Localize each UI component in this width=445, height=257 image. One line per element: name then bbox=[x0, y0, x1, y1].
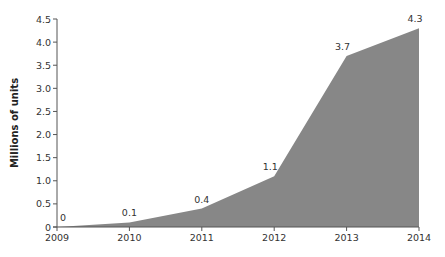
y-axis-label: Millions of units bbox=[9, 78, 20, 168]
area-chart: 00.51.01.52.02.53.03.54.04.5 20092010201… bbox=[0, 0, 445, 257]
area-series bbox=[57, 28, 419, 227]
data-label: 0.1 bbox=[122, 207, 137, 218]
y-tick-label: 2.0 bbox=[36, 129, 51, 140]
plot-area bbox=[57, 28, 419, 227]
data-label: 0 bbox=[60, 212, 66, 223]
y-tick-label: 4.0 bbox=[36, 37, 51, 48]
y-tick-label: 1.0 bbox=[36, 175, 51, 186]
x-tick-label: 2013 bbox=[335, 232, 359, 243]
x-tick-label: 2011 bbox=[190, 232, 214, 243]
y-tick-label: 4.5 bbox=[36, 14, 51, 25]
data-label: 3.7 bbox=[335, 41, 350, 52]
y-tick-label: 3.5 bbox=[36, 60, 51, 71]
data-label: 0.4 bbox=[194, 194, 209, 205]
x-tick-label: 2014 bbox=[407, 232, 431, 243]
y-tick-label: 0 bbox=[45, 222, 51, 233]
y-tick-label: 2.5 bbox=[36, 106, 51, 117]
x-axis: 200920102011201220132014 bbox=[45, 227, 431, 243]
data-label: 1.1 bbox=[263, 161, 278, 172]
y-tick-label: 3.0 bbox=[36, 83, 51, 94]
x-tick-label: 2009 bbox=[45, 232, 69, 243]
y-axis: 00.51.01.52.02.53.03.54.04.5 bbox=[36, 14, 57, 233]
data-label: 4.3 bbox=[407, 13, 422, 24]
y-tick-label: 0.5 bbox=[36, 198, 51, 209]
x-tick-label: 2010 bbox=[117, 232, 141, 243]
x-tick-label: 2012 bbox=[262, 232, 286, 243]
y-tick-label: 1.5 bbox=[36, 152, 51, 163]
